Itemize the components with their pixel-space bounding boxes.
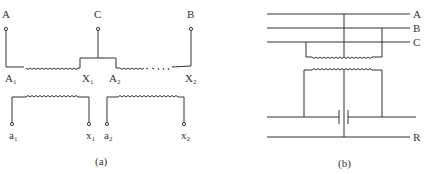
label-a1: a1 <box>9 129 18 143</box>
primary-coil-b1 <box>312 57 344 59</box>
secondary-coil-1 <box>26 96 78 98</box>
label-X2: X2 <box>185 72 197 86</box>
diagram-a-lines <box>4 27 192 125</box>
secondary-coil-b2 <box>344 69 375 71</box>
terminal-a <box>4 27 7 30</box>
label-bus-a: A <box>413 8 421 20</box>
label-bus-c: C <box>413 36 420 48</box>
terminal-x2 <box>182 122 185 125</box>
diagram-b-lines <box>267 14 416 137</box>
caption-a: (a) <box>95 155 108 168</box>
label-X1: X1 <box>82 72 94 86</box>
primary-coil-2 <box>120 68 144 70</box>
label-x2: x2 <box>181 129 191 143</box>
terminal-b <box>189 27 192 30</box>
transformer-diagrams: A C B A1 X1 A2 X2 a1 x1 a2 x2 (a) A <box>0 0 424 174</box>
secondary-coil-2 <box>118 96 178 98</box>
label-c: C <box>94 8 101 20</box>
label-bus-b: B <box>413 22 420 34</box>
terminal-a1 <box>10 122 13 125</box>
label-a: A <box>2 8 10 20</box>
primary-coil-1 <box>26 68 80 70</box>
terminal-x1 <box>87 122 90 125</box>
secondary-coil-b1 <box>312 69 344 71</box>
label-a2: a2 <box>104 129 113 143</box>
label-A1: A1 <box>5 72 17 86</box>
terminal-c <box>96 27 99 30</box>
label-x1: x1 <box>86 129 96 143</box>
label-bus-r: R <box>413 131 421 143</box>
primary-coil-b2 <box>344 57 375 59</box>
label-b: B <box>187 8 194 20</box>
caption-b: (b) <box>338 157 351 170</box>
label-A2: A2 <box>109 72 121 86</box>
terminal-a2 <box>105 122 108 125</box>
